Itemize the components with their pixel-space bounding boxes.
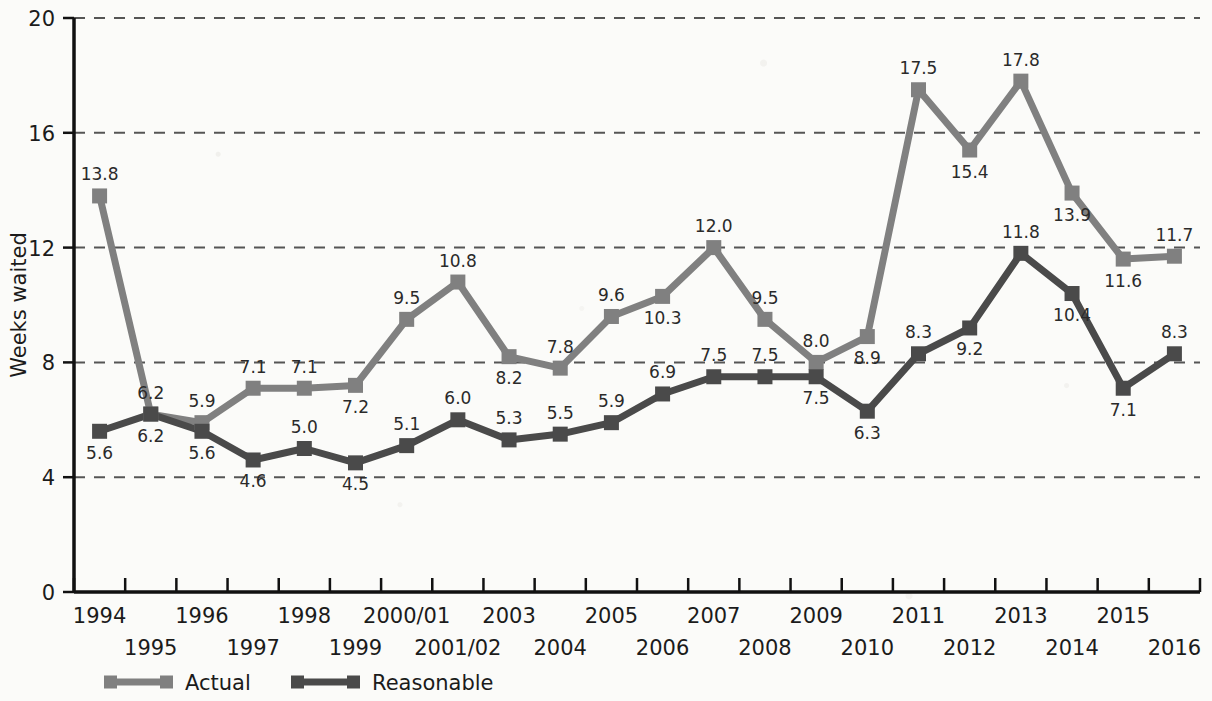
value-label-actual-1999: 7.2 <box>342 397 369 417</box>
y-axis-title: Weeks waited <box>7 232 31 378</box>
value-label-reasonable-2007: 7.5 <box>700 345 727 365</box>
value-label-reasonable-1997: 4.6 <box>240 471 267 491</box>
value-label-actual-2005: 9.6 <box>598 285 625 305</box>
x-axis-label-2000-01: 2000/01 <box>363 604 450 628</box>
value-label-actual-1997: 7.1 <box>240 357 267 377</box>
x-axis-label-2001-02: 2001/02 <box>414 636 501 660</box>
value-label-actual-2000-01: 9.5 <box>393 288 420 308</box>
value-label-reasonable-2003: 5.3 <box>496 408 523 428</box>
legend-marker-left-actual <box>104 676 117 689</box>
value-label-reasonable-2004: 5.5 <box>547 403 574 423</box>
data-point-actual-2016 <box>1167 249 1182 264</box>
x-axis-label-2015: 2015 <box>1097 604 1150 628</box>
value-label-actual-1994: 13.8 <box>81 164 119 184</box>
x-axis-label-2007: 2007 <box>687 604 740 628</box>
data-point-actual-2006 <box>655 289 670 304</box>
value-label-reasonable-2013: 11.8 <box>1002 222 1040 242</box>
waiting-times-line-chart: 048121620Weeks waited1994199519961997199… <box>0 0 1212 701</box>
x-axis-label-2004: 2004 <box>534 636 587 660</box>
data-point-actual-2001-02 <box>450 275 465 290</box>
x-axis-label-2003: 2003 <box>482 604 535 628</box>
x-axis-label-1994: 1994 <box>73 604 126 628</box>
data-point-reasonable-2011 <box>911 346 926 361</box>
data-point-actual-2000-01 <box>399 312 414 327</box>
value-label-reasonable-2001-02: 6.0 <box>444 388 471 408</box>
y-axis-label-12: 12 <box>28 237 55 261</box>
x-axis-label-2011: 2011 <box>892 604 945 628</box>
y-axis-label-0: 0 <box>42 581 55 605</box>
value-label-actual-2009: 8.0 <box>803 331 830 351</box>
x-axis-label-1996: 1996 <box>175 604 228 628</box>
value-label-actual-1998: 7.1 <box>291 357 318 377</box>
value-label-actual-2015: 11.6 <box>1104 271 1142 291</box>
legend-marker-right-reasonable <box>347 676 360 689</box>
data-point-actual-2014 <box>1065 186 1080 201</box>
data-point-reasonable-1995 <box>143 407 158 422</box>
legend-marker-right-actual <box>160 676 173 689</box>
value-label-actual-2011: 17.5 <box>900 58 938 78</box>
data-point-reasonable-1997 <box>246 452 261 467</box>
data-point-actual-2015 <box>1116 252 1131 267</box>
value-label-actual-2006: 10.3 <box>644 308 682 328</box>
value-label-actual-2007: 12.0 <box>695 216 733 236</box>
value-label-actual-2001-02: 10.8 <box>439 251 477 271</box>
data-point-reasonable-2014 <box>1065 286 1080 301</box>
data-point-reasonable-2013 <box>1013 246 1028 261</box>
data-point-actual-2007 <box>706 240 721 255</box>
x-axis-label-2013: 2013 <box>994 604 1047 628</box>
data-point-actual-1999 <box>348 378 363 393</box>
y-axis-label-4: 4 <box>42 466 55 490</box>
data-point-reasonable-1999 <box>348 455 363 470</box>
data-point-actual-2010 <box>860 329 875 344</box>
data-point-actual-2013 <box>1013 74 1028 89</box>
y-axis-label-20: 20 <box>28 7 55 31</box>
value-label-actual-2014: 13.9 <box>1053 205 1091 225</box>
value-label-reasonable-1996: 5.6 <box>188 443 215 463</box>
value-label-reasonable-1999: 4.5 <box>342 474 369 494</box>
data-point-reasonable-2010 <box>860 404 875 419</box>
value-label-actual-2012: 15.4 <box>951 162 989 182</box>
value-label-reasonable-2005: 5.9 <box>598 391 625 411</box>
value-label-reasonable-2016: 8.3 <box>1161 322 1188 342</box>
data-point-actual-2012 <box>962 143 977 158</box>
data-point-reasonable-2006 <box>655 386 670 401</box>
y-axis-label-16: 16 <box>28 122 55 146</box>
x-axis-label-1997: 1997 <box>226 636 279 660</box>
data-point-reasonable-2004 <box>553 427 568 442</box>
data-point-actual-2008 <box>757 312 772 327</box>
x-axis-label-2005: 2005 <box>585 604 638 628</box>
value-label-actual-2010: 8.9 <box>854 348 881 368</box>
data-point-actual-2011 <box>911 82 926 97</box>
data-point-reasonable-2015 <box>1116 381 1131 396</box>
x-axis-label-1998: 1998 <box>278 604 331 628</box>
value-label-reasonable-1995: 6.2 <box>137 426 164 446</box>
value-label-reasonable-2015: 7.1 <box>1110 400 1137 420</box>
y-axis-label-8: 8 <box>42 351 55 375</box>
data-point-reasonable-2007 <box>706 369 721 384</box>
legend-label-reasonable: Reasonable <box>372 671 494 695</box>
x-axis-label-2010: 2010 <box>841 636 894 660</box>
data-point-reasonable-2000-01 <box>399 438 414 453</box>
data-point-reasonable-2012 <box>962 320 977 335</box>
value-label-reasonable-1994: 5.6 <box>86 443 113 463</box>
data-point-actual-2009 <box>809 355 824 370</box>
value-label-actual-1996: 5.9 <box>188 391 215 411</box>
value-label-reasonable-2006: 6.9 <box>649 362 676 382</box>
data-point-actual-2004 <box>553 361 568 376</box>
x-axis-label-2012: 2012 <box>943 636 996 660</box>
data-point-reasonable-2001-02 <box>450 412 465 427</box>
value-label-reasonable-2009: 7.5 <box>803 388 830 408</box>
x-axis-label-1995: 1995 <box>124 636 177 660</box>
data-point-reasonable-1998 <box>297 441 312 456</box>
data-point-reasonable-2009 <box>809 369 824 384</box>
legend-label-actual: Actual <box>185 671 251 695</box>
value-label-reasonable-2011: 8.3 <box>905 322 932 342</box>
value-label-reasonable-1998: 5.0 <box>291 417 318 437</box>
data-point-reasonable-2016 <box>1167 346 1182 361</box>
value-label-actual-2008: 9.5 <box>751 288 778 308</box>
data-point-reasonable-2008 <box>757 369 772 384</box>
data-point-reasonable-1994 <box>92 424 107 439</box>
value-label-reasonable-2012: 9.2 <box>956 339 983 359</box>
data-point-actual-1998 <box>297 381 312 396</box>
value-label-reasonable-2008: 7.5 <box>751 345 778 365</box>
